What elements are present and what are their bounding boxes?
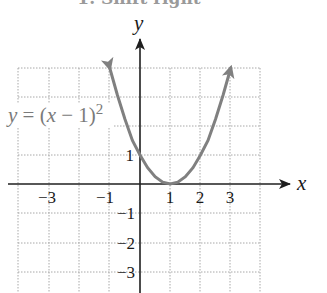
grid	[18, 68, 260, 293]
svg-text:−1: −1	[117, 204, 135, 223]
svg-text:2: 2	[196, 188, 205, 207]
svg-text:1: 1	[126, 146, 135, 165]
x-tick-labels: −3 −1 1 2 3	[38, 188, 234, 207]
x-axis-label: x	[296, 171, 307, 195]
equation-label: y = (x − 1)2	[6, 101, 103, 127]
svg-text:3: 3	[226, 188, 235, 207]
y-axis-label: y	[132, 11, 144, 35]
svg-text:−3: −3	[117, 263, 135, 282]
graph: 1. Shift right x y −3 −1 1 2 3 1 −1 −2	[0, 0, 327, 293]
svg-text:−2: −2	[117, 234, 135, 253]
y-tick-labels: 1 −1 −2 −3	[117, 146, 135, 282]
svg-text:1: 1	[166, 188, 175, 207]
svg-text:−1: −1	[96, 188, 114, 207]
chart-title: 1. Shift right	[77, 0, 201, 8]
svg-text:−3: −3	[38, 188, 56, 207]
